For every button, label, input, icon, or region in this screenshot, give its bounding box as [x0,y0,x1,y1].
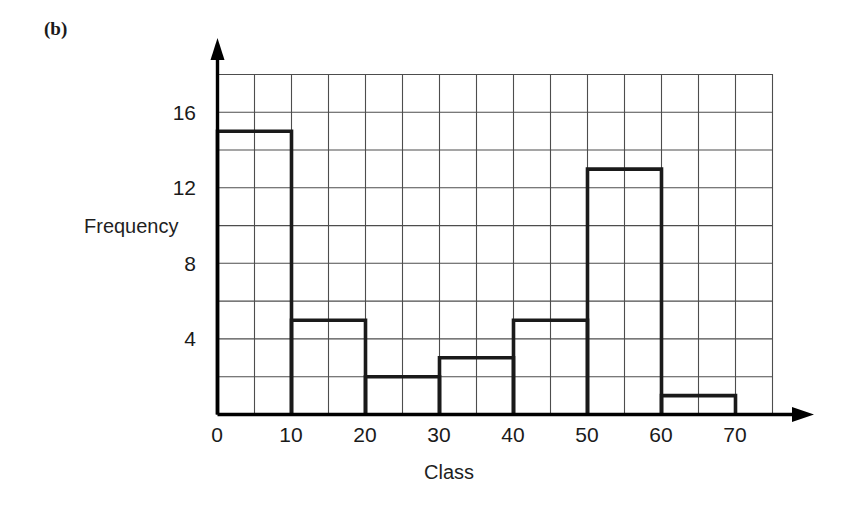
grid-horizontal [217,75,772,377]
grid-vertical [218,74,773,414]
histogram-figure: (b) Frequency Class 16 12 8 4 0 10 20 30… [0,0,850,508]
y-axis-arrow [211,38,225,60]
histogram-plot [0,0,850,508]
x-axis-arrow [792,407,814,422]
